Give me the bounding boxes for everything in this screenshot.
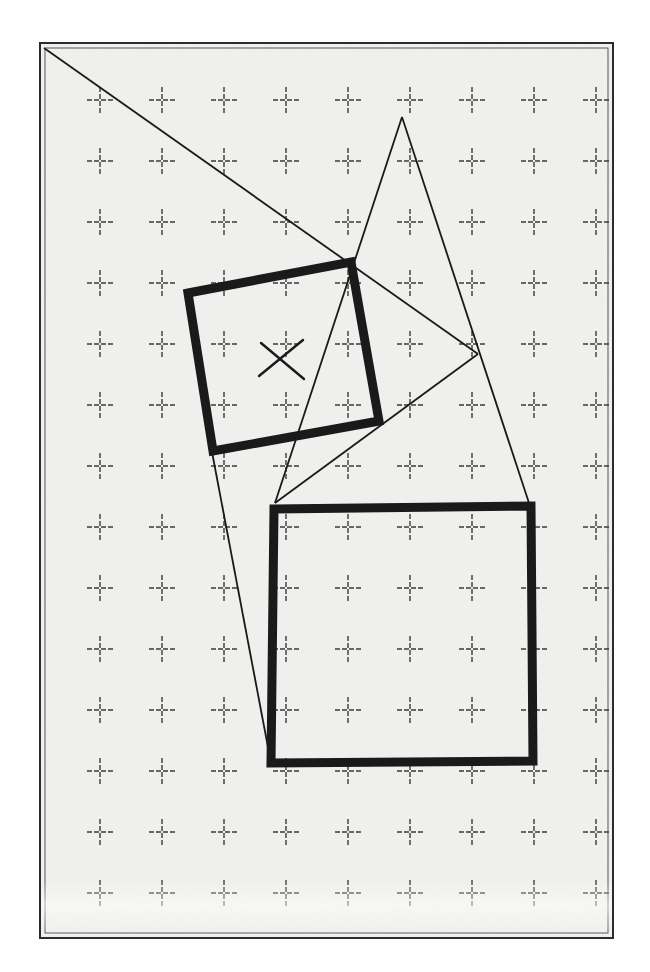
figure-canvas <box>0 0 650 972</box>
paper-grain-overlay <box>40 43 613 938</box>
figure-root <box>0 0 650 972</box>
